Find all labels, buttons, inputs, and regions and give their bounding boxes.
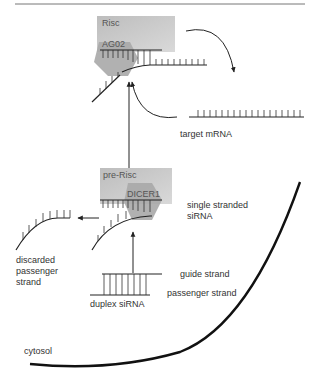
dicer1-label: DICER1 [127,189,160,200]
discarded-label-2: passenger [16,266,58,277]
discarded-label-3: strand [16,277,41,288]
single-stranded-label-2: siRNA [187,211,213,222]
duplex-sirna [90,274,162,295]
duplex-sirna-label: duplex siRNA [90,299,145,310]
ago2-label: AG02 [102,39,125,50]
cell-membrane-curve [30,182,300,366]
target-mrna-label: target mRNA [180,129,232,140]
discarded-passenger-strand [16,210,70,250]
risc-label: Risc [102,18,120,29]
discarded-label-1: discarded [16,255,55,266]
release-arrow [186,30,234,72]
single-stranded-label-1: single stranded [187,200,248,211]
passenger-strand-label: passenger strand [167,288,237,299]
target-mrna [189,110,304,117]
cytosol-label: cytosol [24,346,52,357]
guide-strand-label: guide strand [180,269,230,280]
binding-arrow [132,82,177,118]
pre-risc-label: pre-Risc [103,170,137,181]
